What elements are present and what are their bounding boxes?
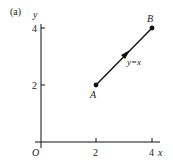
y-tick-label-4: 4 [32,23,37,34]
y-tick-label-2: 2 [32,80,37,91]
point-b [150,26,155,31]
x-axis-label: x [157,147,163,158]
origin-label: O [32,147,39,158]
point-a [94,83,99,88]
panel-label: (a) [10,6,21,18]
curve-label: y=x [126,57,141,67]
diagram-figure: (a) y 4 2 O 2 4 x A B y=x [0,0,173,162]
point-a-label: A [89,89,97,100]
point-b-label: B [147,13,153,24]
y-axis-label: y [32,9,38,20]
x-tick-label-2: 2 [93,147,98,158]
diagram-canvas: (a) y 4 2 O 2 4 x A B y=x [0,0,173,162]
x-tick-label-4: 4 [149,147,154,158]
